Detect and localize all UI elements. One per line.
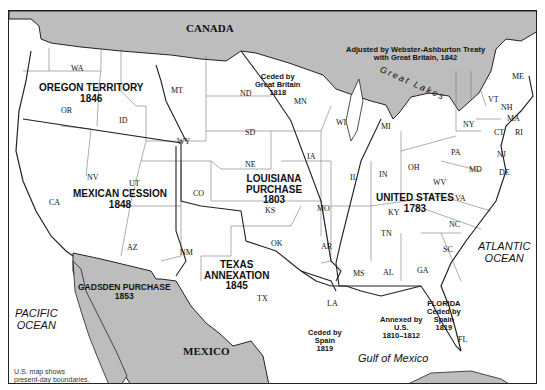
state-nc: NC [449, 221, 460, 229]
state-ms: MS [353, 270, 365, 278]
label-ceded-great-britain: Ceded by Great Britain 1818 [255, 73, 300, 97]
texas-year: 1845 [204, 281, 269, 292]
state-mo: MO [317, 205, 330, 213]
state-wa: WA [71, 65, 83, 73]
state-me: ME [512, 73, 524, 81]
state-wv: WV [433, 179, 446, 187]
louisiana-name1: LOUISIANA [246, 174, 302, 185]
state-nh: NH [501, 104, 513, 112]
map-frame: CANADA MEXICO PACIFIC OCEAN ATLANTIC OCE… [8, 10, 537, 384]
state-sd: SD [245, 129, 255, 137]
state-nj: NJ [497, 151, 506, 159]
label-webster-ashburton: Adjusted by Webster-Ashburton Treaty wit… [346, 46, 485, 62]
label-atlantic-ocean: ATLANTIC OCEAN [478, 240, 530, 264]
state-az: AZ [127, 244, 138, 252]
state-vt: VT [488, 96, 499, 104]
oregon-year: 1846 [39, 94, 143, 105]
state-la: LA [327, 300, 338, 308]
state-md: MD [469, 166, 482, 174]
state-ny: NY [463, 121, 475, 129]
label-gulf-of-mexico: Gulf of Mexico [358, 352, 428, 364]
state-ky: KY [388, 209, 400, 217]
ceded-spain-year: 1819 [308, 345, 342, 353]
state-mn: MN [294, 98, 307, 106]
oregon-name: OREGON TERRITORY [39, 83, 143, 94]
united-states-name: UNITED STATES [376, 193, 454, 204]
state-pa: PA [451, 149, 461, 157]
label-mexican-cession: MEXICAN CESSION 1848 [73, 189, 167, 210]
state-al: AL [383, 269, 394, 277]
label-mexico: MEXICO [183, 346, 229, 357]
note-line2: present-day boundaries. [14, 376, 90, 384]
mexican-cession-year: 1848 [73, 200, 167, 211]
state-ma: MA [507, 115, 520, 123]
state-wi: WI [336, 119, 346, 127]
state-ks: KS [265, 207, 275, 215]
label-louisiana-purchase: LOUISIANA PURCHASE 1803 [246, 174, 302, 206]
state-ut: UT [129, 180, 140, 188]
state-ar: AR [321, 243, 332, 251]
state-il: IL [350, 174, 358, 182]
state-fl: FL [458, 336, 467, 344]
state-tn: TN [381, 230, 392, 238]
texas-name1: TEXAS [204, 260, 269, 271]
state-ca: CA [49, 199, 60, 207]
state-nm: NM [180, 249, 193, 257]
state-ga: GA [417, 267, 429, 275]
state-ok: OK [271, 240, 283, 248]
label-ceded-spain: Ceded by Spain 1819 [308, 329, 342, 353]
state-or: OR [61, 107, 72, 115]
note-line1: U.S. map shows [14, 368, 90, 376]
cuba [406, 371, 511, 384]
label-oregon-territory: OREGON TERRITORY 1846 [39, 83, 143, 104]
state-ct: CT [494, 129, 504, 137]
label-canada: CANADA [186, 23, 234, 34]
mexican-cession-name: MEXICAN CESSION [73, 189, 167, 200]
state-ne: NE [245, 161, 256, 169]
louisiana-year: 1803 [246, 195, 302, 206]
state-nd: ND [240, 90, 252, 98]
state-in: IN [379, 171, 387, 179]
state-mi: MI [381, 123, 391, 131]
state-sc: SC [443, 246, 453, 254]
state-co: CO [193, 190, 204, 198]
label-pacific-ocean: PACIFIC OCEAN [15, 307, 58, 331]
ceded-britain-year: 1818 [255, 89, 300, 97]
state-ia: IA [307, 153, 315, 161]
state-wy: WY [177, 138, 190, 146]
state-oh: OH [408, 164, 420, 172]
label-gadsden-purchase: GADSDEN PURCHASE 1853 [78, 283, 171, 301]
annexed-year: 1810–1812 [380, 332, 423, 340]
florida-year: 1819 [427, 324, 461, 332]
state-nv: NV [87, 174, 99, 182]
state-id: ID [119, 117, 127, 125]
webster-line2: with Great Britain, 1842 [346, 54, 485, 62]
state-va: VA [455, 195, 466, 203]
label-florida: FLORIDA Ceded by Spain 1819 [427, 300, 461, 332]
state-de: DE [499, 169, 510, 177]
gadsden-year: 1853 [78, 292, 171, 301]
state-tx: TX [257, 295, 268, 303]
label-annexed-us: Annexed by U.S. 1810–1812 [380, 316, 423, 340]
label-texas-annexation: TEXAS ANNEXATION 1845 [204, 260, 269, 292]
map-note: U.S. map shows present-day boundaries. [14, 368, 90, 384]
state-ri: RI [515, 129, 523, 137]
state-mt: MT [171, 87, 183, 95]
